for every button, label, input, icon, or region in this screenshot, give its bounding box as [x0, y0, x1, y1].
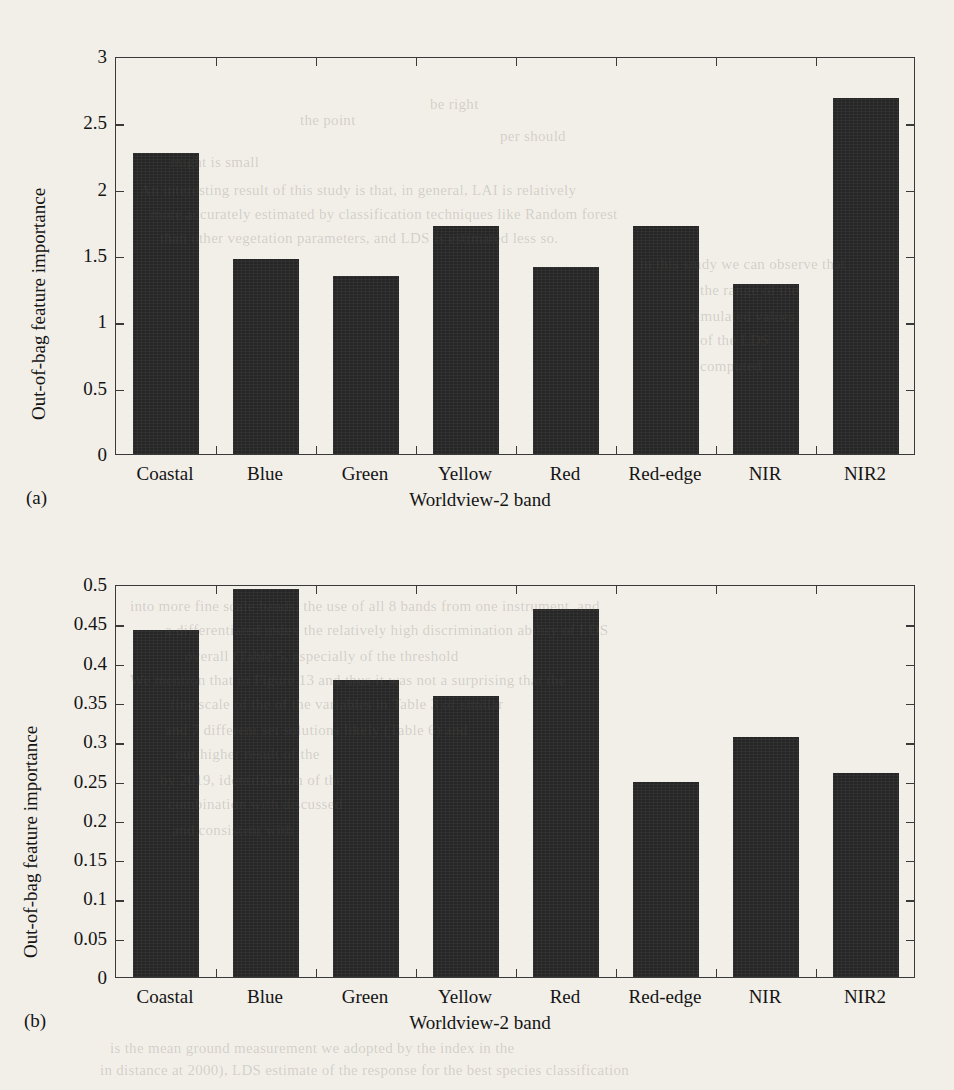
y-axis-label-b: Out-of-bag feature importance — [20, 726, 42, 958]
y-tick-label: 0.35 — [74, 692, 107, 714]
y-tick-mark — [906, 940, 914, 941]
y-tick-label: 0.45 — [74, 613, 107, 635]
bar — [133, 153, 199, 454]
x-tick-mark — [416, 446, 417, 454]
y-tick-mark — [906, 861, 914, 862]
x-tick-mark — [716, 969, 717, 977]
bar — [333, 276, 399, 454]
bar-series-b — [116, 586, 914, 977]
y-tick-mark — [906, 665, 914, 666]
x-tick-mark — [416, 58, 417, 66]
plot-area-a — [115, 57, 915, 455]
bar — [733, 284, 799, 454]
y-tick-label: 2.5 — [83, 112, 107, 134]
bar — [133, 630, 199, 977]
y-tick-mark — [906, 743, 914, 744]
x-tick-mark — [716, 586, 717, 594]
y-tick-label: 0 — [98, 444, 108, 466]
x-tick-mark — [316, 586, 317, 594]
y-tick-label: 0.5 — [83, 574, 107, 596]
y-tick-mark — [116, 861, 124, 862]
x-tick-mark — [516, 58, 517, 66]
y-tick-mark — [906, 390, 914, 391]
x-tick-label: Green — [342, 986, 388, 1008]
x-tick-mark — [316, 446, 317, 454]
panel-letter-a: (a) — [26, 487, 47, 509]
x-tick-label: Red-edge — [629, 463, 702, 485]
x-tick-label: Red — [550, 463, 581, 485]
x-tick-mark — [716, 446, 717, 454]
x-tick-mark — [316, 969, 317, 977]
y-tick-mark — [906, 783, 914, 784]
bar — [233, 589, 299, 977]
x-tick-mark — [616, 446, 617, 454]
y-tick-label: 1.5 — [83, 245, 107, 267]
x-tick-label: NIR — [749, 986, 782, 1008]
x-tick-mark — [716, 58, 717, 66]
y-tick-mark — [116, 323, 124, 324]
x-tick-mark — [316, 58, 317, 66]
y-tick-label: 0.1 — [83, 888, 107, 910]
x-tick-label: Blue — [247, 463, 283, 485]
plot-area-b — [115, 585, 915, 978]
y-tick-mark — [116, 743, 124, 744]
bar — [533, 609, 599, 977]
y-tick-label: 0.2 — [83, 810, 107, 832]
x-tick-mark — [416, 969, 417, 977]
bar — [433, 696, 499, 977]
figure-panel-b: Out-of-bag feature importance 00.050.10.… — [0, 528, 954, 1090]
panel-letter-b: (b) — [24, 1010, 46, 1032]
y-tick-mark — [116, 390, 124, 391]
x-axis-label-b: Worldview-2 band — [3, 1012, 954, 1034]
y-tick-label: 0.25 — [74, 771, 107, 793]
x-tick-label: Green — [342, 463, 388, 485]
y-tick-label: 0 — [98, 967, 108, 989]
x-tick-label: NIR2 — [844, 463, 886, 485]
bar — [733, 737, 799, 977]
x-tick-mark — [216, 969, 217, 977]
y-tick-mark — [116, 704, 124, 705]
x-tick-label: NIR — [749, 463, 782, 485]
x-tick-label: Coastal — [137, 463, 194, 485]
y-tick-mark — [906, 191, 914, 192]
x-tick-mark — [816, 446, 817, 454]
y-tick-label: 2 — [98, 179, 108, 201]
x-tick-mark — [516, 446, 517, 454]
x-tick-mark — [516, 586, 517, 594]
y-tick-mark — [116, 822, 124, 823]
y-tick-label: 0.4 — [83, 653, 107, 675]
y-tick-mark — [906, 625, 914, 626]
y-tick-mark — [906, 822, 914, 823]
x-tick-mark — [216, 58, 217, 66]
x-tick-label: NIR2 — [844, 986, 886, 1008]
y-tick-mark — [116, 900, 124, 901]
y-tick-label: 3 — [98, 46, 108, 68]
y-tick-mark — [116, 257, 124, 258]
x-tick-mark — [816, 969, 817, 977]
y-tick-mark — [906, 257, 914, 258]
y-tick-mark — [116, 783, 124, 784]
y-tick-mark — [116, 625, 124, 626]
x-tick-mark — [616, 969, 617, 977]
bar — [633, 226, 699, 454]
bar — [833, 98, 899, 454]
y-tick-label: 1 — [98, 311, 108, 333]
y-tick-label: 0.05 — [74, 928, 107, 950]
y-tick-mark — [116, 940, 124, 941]
x-tick-mark — [416, 586, 417, 594]
x-tick-label: Blue — [247, 986, 283, 1008]
bar-series-a — [116, 58, 914, 454]
x-tick-mark — [816, 586, 817, 594]
y-tick-mark — [906, 704, 914, 705]
bar — [533, 267, 599, 454]
y-tick-mark — [116, 665, 124, 666]
x-tick-label: Yellow — [438, 463, 492, 485]
figure-panel-a: Out-of-bag feature importance 00.511.522… — [0, 0, 954, 520]
x-tick-mark — [216, 586, 217, 594]
bar — [633, 782, 699, 977]
y-tick-label: 0.3 — [83, 731, 107, 753]
bar — [333, 680, 399, 977]
x-tick-mark — [516, 969, 517, 977]
y-tick-mark — [906, 323, 914, 324]
y-tick-mark — [906, 124, 914, 125]
